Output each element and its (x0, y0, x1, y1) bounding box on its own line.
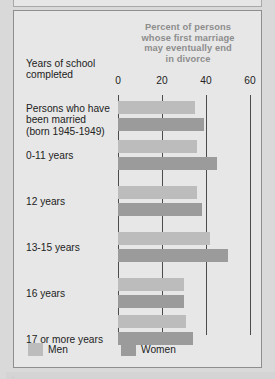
category-label-line-1: Persons who have (26, 103, 118, 114)
xtick-label-20: 20 (147, 75, 177, 86)
category-label-16-years: 16 years (26, 288, 118, 299)
category-label-line-3: (born 1945-1949) (26, 126, 118, 137)
legend-label-women: Women (141, 343, 176, 356)
bar-married-men (118, 101, 195, 114)
bar-married-women (118, 118, 204, 131)
legend-label-men: Men (48, 343, 68, 356)
bar-17-plus-years-men (118, 315, 186, 328)
xtick-label-0: 0 (103, 75, 133, 86)
bar-16-years-men (118, 278, 184, 291)
bar-12-years-women (118, 203, 202, 216)
plot-area: 0 20 40 60 Persons who have been married… (14, 11, 263, 369)
clipped-footer-label: . (6, 372, 275, 379)
bar-0-11-years-women (118, 157, 217, 170)
legend-swatch-women-icon (121, 343, 136, 356)
bar-0-11-years-men (118, 140, 197, 153)
bar-16-years-women (118, 295, 184, 308)
clipped-footer-text: . (6, 372, 275, 379)
legend-swatch-men-icon (28, 343, 43, 356)
category-label-0-11-years: 0-11 years (26, 150, 118, 161)
chart-panel: Percent of persons whose first marriage … (13, 10, 262, 368)
category-label-12-years: 12 years (26, 196, 118, 207)
category-label-married: Persons who have been married (born 1945… (26, 103, 118, 137)
bar-13-15-years-men (118, 232, 210, 245)
category-label-13-15-years: 13-15 years (26, 242, 118, 253)
xtick-label-40: 40 (191, 75, 221, 86)
chart-legend: Men Women (14, 341, 263, 363)
gridline-60 (250, 95, 251, 335)
bar-12-years-men (118, 186, 197, 199)
bar-13-15-years-women (118, 249, 228, 262)
clipped-top-panel (13, 0, 262, 7)
category-label-line-2: been married (26, 114, 118, 125)
xtick-label-60: 60 (235, 75, 265, 86)
gridline-40 (206, 95, 207, 335)
